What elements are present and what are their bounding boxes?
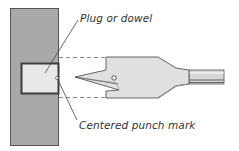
spade-bit <box>75 57 224 98</box>
bit-shank <box>189 70 224 84</box>
plug-dowel <box>22 64 59 94</box>
punch-mark-label: Centered punch mark <box>79 119 196 131</box>
punch-mark <box>56 77 59 80</box>
bit-hole <box>112 76 116 80</box>
diagram-canvas: Plug or dowel Centered punch mark <box>0 0 239 151</box>
plug-label: Plug or dowel <box>80 12 152 24</box>
bit-blade <box>75 57 189 98</box>
